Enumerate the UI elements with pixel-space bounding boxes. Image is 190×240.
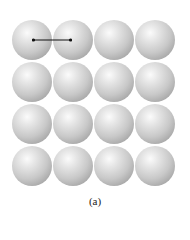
sphere xyxy=(94,20,134,60)
sphere xyxy=(12,104,52,144)
sphere xyxy=(53,146,93,186)
sphere xyxy=(94,62,134,102)
sphere xyxy=(94,146,134,186)
figure-caption: (a) xyxy=(0,195,190,207)
sphere xyxy=(135,146,175,186)
sphere xyxy=(135,20,175,60)
sphere xyxy=(53,104,93,144)
sphere xyxy=(12,146,52,186)
sphere xyxy=(135,104,175,144)
sphere xyxy=(94,104,134,144)
sphere xyxy=(12,62,52,102)
sphere xyxy=(53,62,93,102)
lattice-spacing-arrow-icon xyxy=(32,38,72,42)
sphere xyxy=(135,62,175,102)
sphere-lattice xyxy=(12,20,176,188)
